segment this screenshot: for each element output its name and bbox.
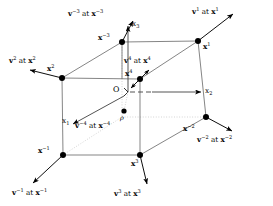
node-label-x1: x1 <box>203 43 211 50</box>
lattice-cube-diagram: x3 x2 x1 O ρ x1 x2 x3 x4 x−1 x−2 x−3 v1 … <box>0 0 273 206</box>
rho-endpoint-dot <box>121 108 126 113</box>
node-label-x3: x3 <box>131 160 139 167</box>
rho-label: ρ <box>120 115 124 121</box>
vector-label-v4: v4 at x4 <box>124 57 151 64</box>
axis-label-x1: x1 <box>62 117 69 124</box>
vector-v1 <box>198 14 233 41</box>
vector-v2 <box>30 70 62 78</box>
vector-vm2 <box>206 117 232 131</box>
vector-vm1 <box>33 155 63 183</box>
vector-label-vm3: v−3 at x−3 <box>68 10 103 17</box>
origin-label: O <box>113 86 119 94</box>
edge-top-left-back <box>62 42 122 78</box>
vector-label-v3: v3 at x3 <box>114 190 141 197</box>
edge-vert-right-back <box>198 41 206 117</box>
vector-vm4 <box>131 79 140 88</box>
vector-label-v1: v1 at x1 <box>192 8 219 15</box>
axis-label-x2: x2 <box>205 87 212 94</box>
vector-v3 <box>140 155 147 184</box>
edge-top-back <box>122 41 198 42</box>
node-label-x4: x4 <box>125 70 133 77</box>
vector-v4 <box>140 70 149 79</box>
node-label-xm1: x−1 <box>38 147 50 154</box>
node-label-x2: x2 <box>47 65 55 72</box>
vector-label-vm2: v−2 at x−2 <box>197 136 232 143</box>
node-label-xm2: x−2 <box>183 125 195 132</box>
axis-label-x3: x3 <box>132 20 139 27</box>
node-label-xm3: x−3 <box>98 34 110 41</box>
diagram-canvas <box>0 0 273 206</box>
vector-label-vm4: v−4 at x−4 <box>75 122 110 129</box>
coordinate-axes <box>73 26 201 124</box>
vector-label-v2: v2 at x2 <box>9 57 36 64</box>
vector-label-vm1: v−1 at x−1 <box>12 189 47 196</box>
